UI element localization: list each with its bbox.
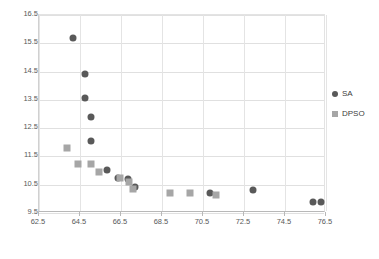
gridline-horizontal <box>39 185 324 186</box>
gridline-horizontal <box>39 43 324 44</box>
x-axis-tick-label: 62.5 <box>18 218 58 226</box>
y-axis-tick-label: 14.5 <box>4 67 38 75</box>
y-axis-tick-mark <box>34 183 38 184</box>
data-point-sa <box>103 166 110 173</box>
y-axis-tick-mark <box>34 42 38 43</box>
data-point-dpso <box>213 191 220 198</box>
data-point-dpso <box>167 190 174 197</box>
data-point-sa <box>317 198 324 205</box>
data-point-dpso <box>63 144 70 151</box>
y-axis-tick-label: 16.5 <box>4 10 38 18</box>
y-axis-tick-mark <box>34 98 38 99</box>
x-axis-tick-label: 64.5 <box>59 218 99 226</box>
data-point-sa <box>82 71 89 78</box>
legend-item-dpso[interactable]: DPSO <box>332 110 365 118</box>
data-point-sa <box>250 187 257 194</box>
data-point-sa <box>309 198 316 205</box>
y-axis-tick-mark <box>34 14 38 15</box>
gridline-vertical <box>203 15 204 211</box>
square-marker-icon <box>332 111 338 117</box>
legend-label: SA <box>342 90 353 98</box>
gridline-vertical <box>39 15 40 211</box>
x-axis-tick-mark <box>202 212 203 216</box>
x-axis-tick-mark <box>325 212 326 216</box>
gridline-vertical <box>162 15 163 211</box>
circle-marker-icon <box>332 91 338 97</box>
gridline-horizontal <box>39 213 324 214</box>
x-axis-tick-mark <box>79 212 80 216</box>
data-point-dpso <box>186 190 193 197</box>
data-point-dpso <box>74 160 81 167</box>
y-axis-tick-label: 12.5 <box>4 123 38 131</box>
gridline-vertical <box>244 15 245 211</box>
x-axis-tick-mark <box>38 212 39 216</box>
gridline-horizontal <box>39 15 324 16</box>
gridline-vertical <box>285 15 286 211</box>
x-axis-tick-label: 72.5 <box>223 218 263 226</box>
y-axis-tick-label: 9.5 <box>4 208 38 216</box>
gridline-vertical <box>326 15 327 211</box>
data-point-dpso <box>96 168 103 175</box>
x-axis-tick-label: 68.5 <box>141 218 181 226</box>
x-axis-tick-label: 74.5 <box>264 218 304 226</box>
data-point-sa <box>82 94 89 101</box>
chart-legend: SADPSO <box>332 90 365 130</box>
data-point-dpso <box>116 175 123 182</box>
y-axis-tick-mark <box>34 155 38 156</box>
x-axis-tick-mark <box>161 212 162 216</box>
gridline-horizontal <box>39 156 324 157</box>
data-point-dpso <box>130 185 137 192</box>
data-point-sa <box>69 35 76 42</box>
gridline-vertical <box>80 15 81 211</box>
y-axis-tick-label: 11.5 <box>4 152 38 160</box>
x-axis-tick-label: 70.5 <box>182 218 222 226</box>
data-point-dpso <box>126 178 133 185</box>
legend-item-sa[interactable]: SA <box>332 90 365 98</box>
plot-area <box>38 14 325 212</box>
data-point-dpso <box>88 161 95 168</box>
gridline-horizontal <box>39 128 324 129</box>
y-axis-tick-label: 13.5 <box>4 95 38 103</box>
y-axis-tick-mark <box>34 127 38 128</box>
x-axis-tick-label: 66.5 <box>100 218 140 226</box>
data-point-sa <box>88 114 95 121</box>
y-axis-tick-mark <box>34 70 38 71</box>
scatter-chart: 9.510.511.512.513.514.515.516.5 62.564.5… <box>0 0 379 259</box>
x-axis-tick-mark <box>284 212 285 216</box>
x-axis-tick-label: 76.5 <box>305 218 345 226</box>
x-axis-tick-mark <box>243 212 244 216</box>
y-axis-tick-label: 10.5 <box>4 180 38 188</box>
y-axis-tick-label: 15.5 <box>4 39 38 47</box>
legend-label: DPSO <box>342 110 365 118</box>
data-point-sa <box>88 138 95 145</box>
x-axis-tick-mark <box>120 212 121 216</box>
